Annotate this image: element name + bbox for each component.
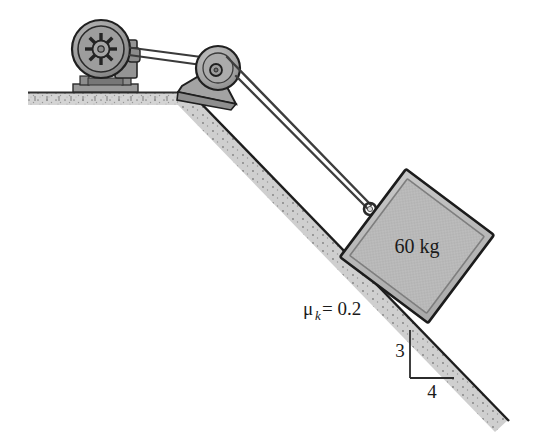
ground-fill: [28, 92, 194, 105]
friction-mu-symbol: μ: [303, 298, 313, 319]
base-cross-member: [88, 78, 123, 85]
hook-eye-hole: [367, 206, 372, 211]
friction-value: = 0.2: [322, 298, 361, 319]
top-pulley: [196, 46, 240, 90]
horizontal-ground: [28, 92, 196, 105]
block-mass-label: 60 kg: [395, 235, 440, 258]
pulley-axle: [214, 68, 218, 72]
physics-diagram-inclined-plane: 60 kg μ k = 0.2 3 4: [0, 0, 536, 447]
drive-wheel-axle: [98, 46, 104, 52]
slope-run-label: 4: [427, 381, 437, 402]
friction-mu-subscript: k: [315, 308, 321, 323]
slope-rise-label: 3: [395, 340, 405, 361]
